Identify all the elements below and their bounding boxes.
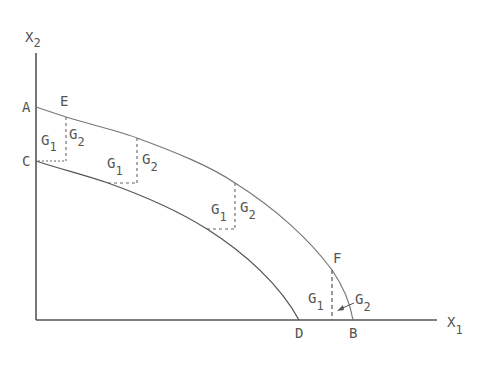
g1-label: G1 (41, 132, 57, 154)
g2-label: G2 (142, 151, 158, 174)
point-label-f: F (333, 250, 341, 266)
y-axis-label: X2 (25, 29, 41, 50)
g2-label: G2 (69, 126, 85, 149)
point-label-c: C (22, 153, 30, 169)
g1-label: G1 (308, 290, 324, 313)
point-label-b: B (349, 325, 357, 341)
x-axis-label: X1 (447, 314, 463, 337)
inner-frontier-curve (36, 161, 299, 320)
g2-label: G2 (240, 199, 256, 222)
point-label-d: D (295, 325, 303, 341)
g1-label: G1 (211, 201, 227, 224)
point-label-a: A (22, 99, 31, 115)
point-label-e: E (60, 93, 68, 109)
g2-label: G2 (355, 291, 371, 314)
frontier-diagram: X2 X1 A E C F D B G1 G2 G1 G2 G1 G2 G1 G… (0, 0, 482, 369)
g1-label: G1 (107, 155, 123, 178)
arrow-icon (337, 303, 354, 311)
